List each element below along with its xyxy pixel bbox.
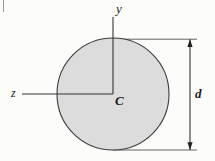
z-axis-label: z bbox=[11, 87, 16, 99]
figure-container: y z C d bbox=[0, 0, 215, 161]
diameter-dimension-label: d bbox=[195, 87, 202, 100]
dimension-arrowhead-bottom bbox=[187, 142, 192, 150]
dimension-arrowhead-top bbox=[187, 39, 192, 47]
diagram-canvas bbox=[0, 0, 215, 161]
y-axis-label: y bbox=[116, 2, 122, 15]
centroid-label: C bbox=[115, 94, 124, 107]
